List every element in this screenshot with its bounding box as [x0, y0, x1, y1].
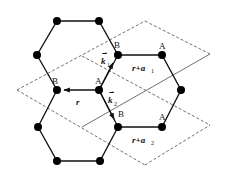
label-r: r: [76, 97, 80, 107]
site-A-lower: [158, 123, 166, 131]
site-A-upper: [158, 51, 166, 59]
label-B-left: B: [52, 76, 58, 86]
site-A-center: [95, 86, 103, 94]
label-A-lower: A: [159, 112, 166, 122]
label-B-upper: B: [114, 40, 120, 50]
label-k2-sub: 2: [114, 101, 117, 107]
cell-edge: [145, 125, 210, 165]
site: [34, 123, 42, 131]
site: [53, 17, 61, 25]
label-A-upper: A: [159, 41, 166, 51]
k2-vector-mark: ⇀: [109, 90, 114, 96]
label-A-center: A: [95, 76, 102, 86]
site: [177, 86, 185, 94]
site-B-left: [53, 86, 61, 94]
label-k1-sub: 1: [107, 62, 110, 68]
site: [33, 51, 41, 59]
label-r-plus-a1: r+a: [132, 63, 146, 73]
label-B-lower: B: [118, 109, 124, 119]
label-a2-sub: 2: [151, 140, 154, 146]
site-B-lower: [114, 123, 122, 131]
label-k2: k: [108, 95, 113, 105]
honeycomb-lattice-diagram: B A B A B A r k 1 ⇀ k 2 ⇀ r+a 1 r+a 2: [0, 0, 227, 177]
site: [96, 157, 104, 165]
cell-edge: [145, 21, 210, 54]
label-k1: k: [101, 56, 106, 66]
site: [53, 157, 61, 165]
k1-vector-mark: ⇀: [102, 51, 107, 57]
label-r-plus-a2: r+a: [132, 135, 146, 145]
label-a1-sub: 1: [151, 68, 154, 74]
site: [95, 17, 103, 25]
site-B-upper: [114, 51, 122, 59]
